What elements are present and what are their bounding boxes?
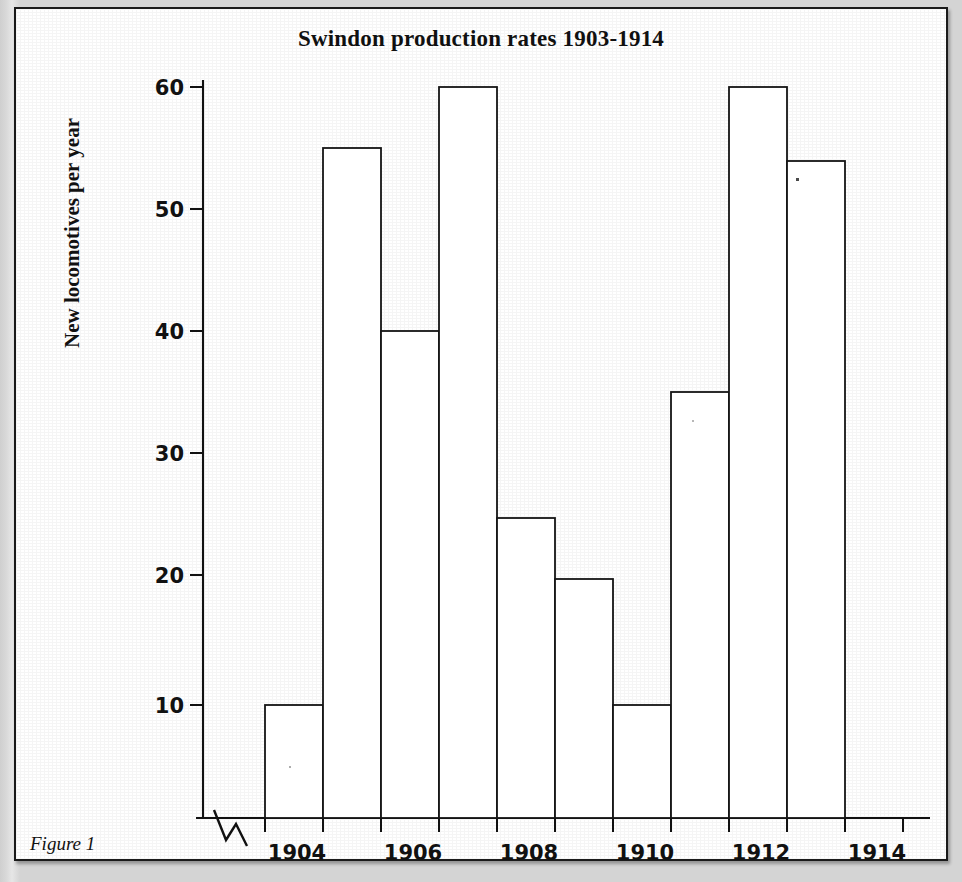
x-tick-marks (265, 818, 903, 832)
x-tick-label: 1910 (616, 841, 674, 865)
bar-chart-plot: 60 50 40 30 20 10 1904 1906 1908 1910 19… (0, 0, 962, 882)
y-tick-label: 30 (155, 442, 184, 466)
bar-1910 (613, 705, 671, 818)
bar-1913 (787, 161, 845, 818)
bar-1911 (671, 392, 729, 818)
x-tick-label: 1908 (500, 841, 558, 865)
y-tick-label: 40 (155, 320, 184, 344)
scanned-page: Swindon production rates 1903-1914 New l… (0, 0, 962, 882)
bar-1906 (381, 331, 439, 818)
bar-1904 (265, 705, 323, 818)
y-tick-label: 60 (155, 76, 184, 100)
y-tick-label: 50 (155, 198, 184, 222)
bar-1907 (439, 87, 497, 818)
bar-1909 (555, 579, 613, 818)
bar-1908 (497, 518, 555, 818)
bar-series (265, 87, 845, 818)
x-tick-label: 1914 (848, 841, 906, 865)
bar-1912 (729, 87, 787, 818)
axis-break-icon (214, 810, 247, 846)
y-tick-label: 20 (155, 564, 184, 588)
figure-caption: Figure 1 (30, 833, 95, 855)
x-tick-label: 1904 (268, 841, 326, 865)
y-tick-marks (190, 87, 203, 705)
bar-1905 (323, 148, 381, 818)
x-tick-label: 1906 (384, 841, 442, 865)
x-tick-label: 1912 (732, 841, 790, 865)
y-tick-label: 10 (155, 694, 184, 718)
